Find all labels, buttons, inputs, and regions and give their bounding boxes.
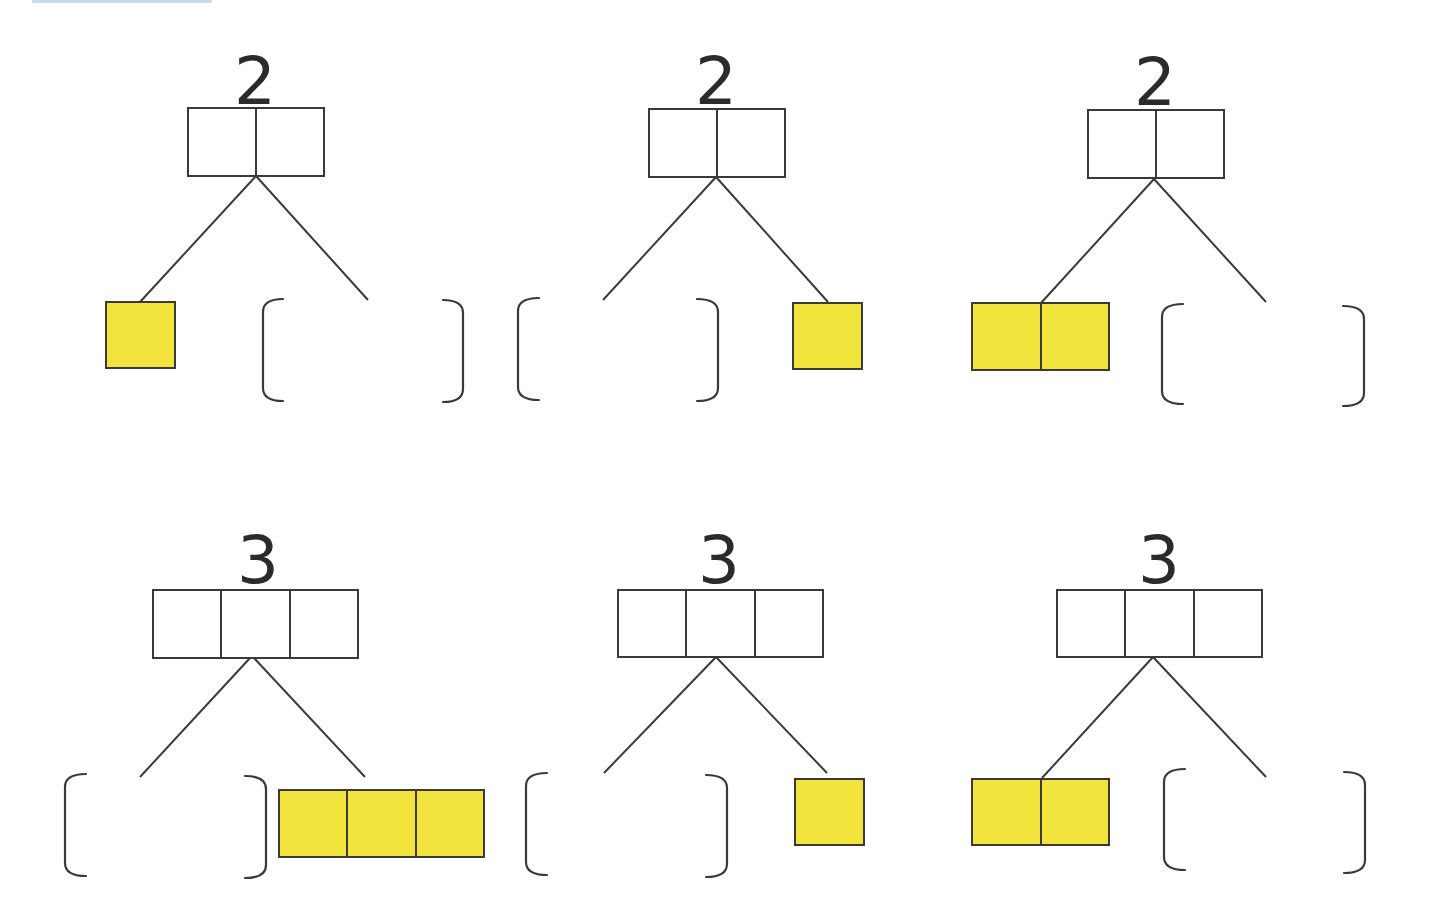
problem-4: 3 [65, 522, 484, 878]
branch-right [716, 177, 828, 302]
branch-right [1154, 179, 1266, 302]
problem-3: 2 [972, 44, 1364, 406]
yellow-counters [279, 790, 484, 857]
yellow-counters [972, 303, 1109, 370]
answer-bracket[interactable] [263, 299, 463, 402]
branch-left [604, 657, 716, 773]
answer-bracket[interactable] [518, 298, 718, 401]
answer-bracket[interactable] [1162, 304, 1364, 406]
branch-left [603, 177, 716, 300]
problem-1: 2 [106, 43, 463, 402]
branch-right [716, 657, 827, 773]
total-cells [649, 109, 785, 177]
answer-bracket[interactable] [65, 774, 266, 878]
branch-right [1153, 657, 1266, 777]
problem-2: 2 [518, 43, 862, 401]
yellow-counters [972, 779, 1109, 845]
total-cells [153, 590, 358, 658]
total-number: 3 [237, 522, 279, 599]
branch-left [1041, 179, 1154, 303]
total-cells [618, 590, 823, 657]
yellow-counter [106, 302, 175, 368]
yellow-counter [793, 303, 862, 369]
branch-right [254, 658, 365, 777]
yellow-counter [795, 779, 864, 845]
answer-bracket[interactable] [526, 773, 727, 877]
answer-bracket[interactable] [1164, 769, 1365, 873]
problem-5: 3 [526, 522, 864, 877]
branch-left [140, 658, 250, 777]
total-number: 3 [698, 522, 740, 599]
total-number: 3 [1138, 522, 1180, 599]
problem-6: 3 [972, 522, 1365, 873]
total-cells [188, 108, 324, 176]
total-cells [1057, 590, 1262, 657]
branch-left [140, 176, 256, 302]
branch-right [256, 176, 368, 300]
branch-left [1042, 657, 1153, 778]
total-cells [1088, 110, 1224, 178]
